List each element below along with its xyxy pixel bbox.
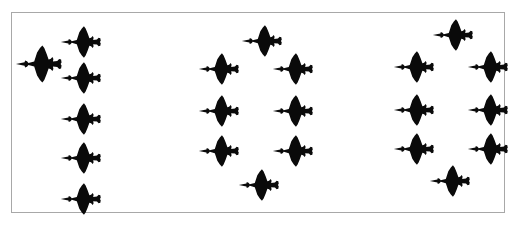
delta-wing-jet-icon — [467, 93, 509, 127]
delta-wing-jet-icon — [393, 93, 435, 127]
delta-wing-jet-icon — [393, 50, 435, 84]
delta-wing-jet-icon — [393, 132, 435, 166]
jet-silhouette-shape — [467, 50, 509, 84]
delta-wing-jet-icon — [429, 164, 471, 198]
jet-silhouette-shape — [432, 18, 474, 52]
photo-frame-border — [11, 12, 505, 213]
formation-right — [12, 13, 504, 212]
delta-wing-jet-icon — [467, 132, 509, 166]
jet-silhouette-shape — [429, 164, 471, 198]
delta-wing-jet-icon — [467, 50, 509, 84]
jet-silhouette-shape — [393, 132, 435, 166]
image-canvas — [0, 0, 520, 228]
jet-silhouette-shape — [393, 50, 435, 84]
jet-silhouette-shape — [467, 132, 509, 166]
jet-silhouette-shape — [467, 93, 509, 127]
delta-wing-jet-icon — [432, 18, 474, 52]
jet-silhouette-shape — [393, 93, 435, 127]
